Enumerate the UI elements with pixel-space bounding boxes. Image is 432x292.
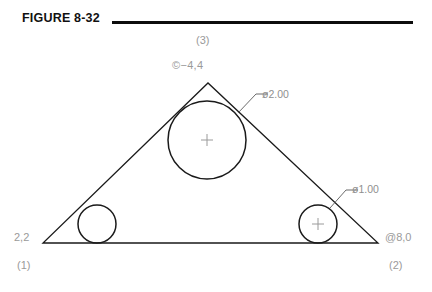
bottom-left-circle bbox=[78, 205, 116, 243]
apex-coordinate-label: ©−4,4 bbox=[172, 59, 203, 71]
figure-page: FIGURE 8-32 bbox=[0, 0, 432, 292]
apex-circle-center-mark bbox=[201, 134, 213, 146]
end-coordinate-label: @8,0 bbox=[385, 231, 411, 243]
vertex-3-label: (3) bbox=[196, 34, 209, 46]
vertex-2-label: (2) bbox=[389, 259, 402, 271]
diameter-large-label: ø2.00 bbox=[262, 88, 289, 100]
diameter-small-label: ø1.00 bbox=[352, 183, 379, 195]
technical-drawing-canvas bbox=[0, 0, 432, 292]
vertex-1-label: (1) bbox=[17, 259, 30, 271]
drawing-svg bbox=[0, 0, 432, 292]
triangle-outline bbox=[43, 83, 378, 243]
bottom-right-circle-center-mark bbox=[312, 218, 324, 230]
start-coordinate-label: 2,2 bbox=[14, 231, 29, 243]
